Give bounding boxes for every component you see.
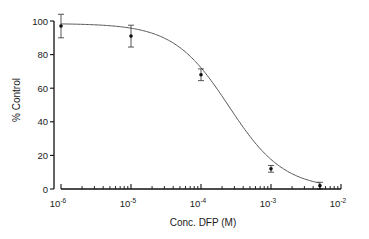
data-point	[268, 165, 274, 172]
fit-curve	[61, 24, 320, 183]
dose-response-chart: 020406080100 10-610-510-410-310-2 % Cont…	[0, 0, 369, 239]
data-point	[58, 14, 64, 38]
y-tick-label: 60	[37, 83, 48, 94]
x-tick-label: 10-5	[120, 197, 137, 209]
point-marker	[269, 167, 273, 171]
plot-area	[58, 14, 323, 189]
y-tick-label: 0	[43, 184, 48, 195]
point-marker	[129, 34, 133, 38]
x-axis: 10-610-510-410-310-2	[50, 184, 347, 209]
y-tick-label: 80	[37, 49, 48, 60]
point-marker	[59, 24, 63, 28]
x-tick-label: 10-6	[50, 197, 67, 209]
y-tick-label: 40	[37, 116, 48, 127]
y-tick-label: 20	[37, 150, 48, 161]
point-marker	[199, 73, 203, 77]
y-axis-label: % Control	[11, 78, 22, 122]
x-axis-label: Conc. DFP (M)	[170, 217, 237, 228]
y-axis: 020406080100	[32, 16, 54, 195]
x-tick-label: 10-3	[260, 197, 277, 209]
x-tick-label: 10-4	[190, 197, 207, 209]
x-tick-label: 10-2	[330, 197, 347, 209]
y-tick-label: 100	[32, 16, 48, 27]
